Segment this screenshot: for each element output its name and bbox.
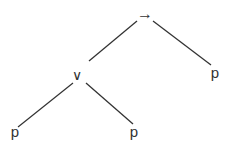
leaf-node-right: p (211, 64, 219, 81)
root-node-implies: → (137, 5, 153, 22)
node-or: ∨ (72, 67, 82, 83)
edge-or-to-left-leaf (18, 83, 73, 127)
edge-or-to-middle-leaf (86, 83, 133, 124)
leaf-node-middle: p (130, 123, 138, 140)
edge-root-to-or (89, 21, 137, 61)
edge-root-to-right-leaf (153, 21, 211, 65)
leaf-node-left: p (11, 123, 19, 140)
formula-tree: → ∨ p p p (0, 0, 232, 151)
